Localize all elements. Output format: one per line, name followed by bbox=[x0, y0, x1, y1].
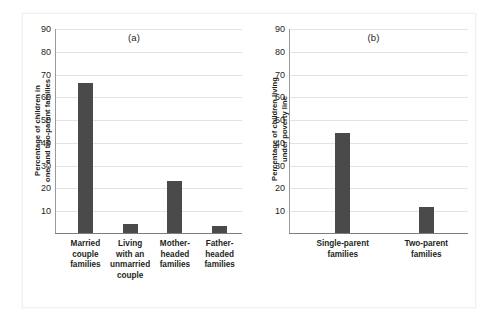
category-label: Living with an unmarried couple bbox=[106, 239, 154, 281]
panel-a-plot-area: 102030405060708090 Married couple famili… bbox=[55, 29, 242, 234]
figure-root: (a) Percentage of children in one- and t… bbox=[0, 0, 497, 321]
y-tick-label: 20 bbox=[275, 183, 285, 193]
y-tick-label: 70 bbox=[275, 70, 285, 80]
category-label: Single-parent families bbox=[308, 239, 378, 260]
y-tick-label: 30 bbox=[41, 161, 51, 171]
y-tick-label: 60 bbox=[41, 92, 51, 102]
bar bbox=[123, 224, 138, 233]
bar bbox=[335, 133, 350, 233]
bar bbox=[167, 181, 182, 233]
panel-a-bars bbox=[55, 29, 242, 234]
category-label: Mother- headed families bbox=[151, 239, 199, 271]
bar bbox=[78, 83, 93, 233]
bar bbox=[419, 207, 434, 233]
panel-b-plot-area: 102030405060708090 Single-parent familie… bbox=[289, 29, 468, 234]
y-tick-label: 30 bbox=[275, 161, 285, 171]
y-tick-label: 50 bbox=[41, 115, 51, 125]
y-tick-label: 80 bbox=[41, 47, 51, 57]
y-tick-label: 20 bbox=[41, 183, 51, 193]
y-tick-label: 60 bbox=[275, 92, 285, 102]
y-tick-label: 90 bbox=[275, 24, 285, 34]
y-tick-label: 90 bbox=[41, 24, 51, 34]
y-tick-label: 10 bbox=[41, 206, 51, 216]
bar bbox=[212, 226, 227, 233]
category-label: Married couple families bbox=[61, 239, 109, 271]
category-label: Two-parent families bbox=[391, 239, 461, 260]
y-tick-label: 40 bbox=[275, 138, 285, 148]
panel-b-bars bbox=[289, 29, 468, 234]
y-tick-label: 80 bbox=[275, 47, 285, 57]
y-tick-label: 70 bbox=[41, 70, 51, 80]
y-tick-label: 40 bbox=[41, 138, 51, 148]
category-label: Father- headed families bbox=[196, 239, 244, 271]
y-tick-label: 50 bbox=[275, 115, 285, 125]
y-tick-label: 10 bbox=[275, 206, 285, 216]
